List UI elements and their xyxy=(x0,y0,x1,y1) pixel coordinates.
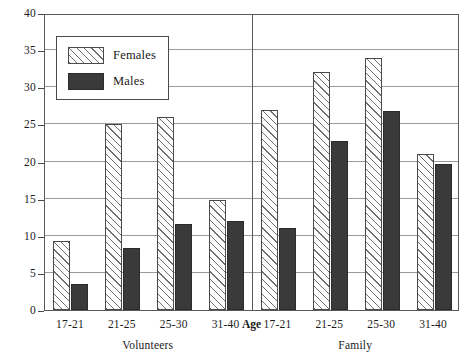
y-axis-tick-label: 15 xyxy=(0,194,36,206)
y-axis-tick-label: 40 xyxy=(0,8,36,20)
bar-volunteers-21-25-females xyxy=(105,124,122,310)
bar-volunteers-17-21-males xyxy=(71,284,88,310)
y-axis-tick-label: 35 xyxy=(0,45,36,57)
legend: Females Males xyxy=(56,36,169,100)
bar-volunteers-17-21-females xyxy=(53,241,70,310)
bar-family-21-25-males xyxy=(331,141,348,310)
bar-family-17-21-males xyxy=(279,228,296,310)
y-axis-tick-label: 20 xyxy=(0,157,36,169)
bar-volunteers-25-30-males xyxy=(175,224,192,310)
legend-label-males: Males xyxy=(113,74,145,89)
bar-volunteers-21-25-males xyxy=(123,248,140,310)
y-axis-tick-label: 5 xyxy=(0,268,36,280)
legend-entry-females: Females xyxy=(68,47,156,64)
y-axis-tick-label: 25 xyxy=(0,119,36,131)
legend-label-females: Females xyxy=(113,48,156,63)
bar-family-17-21-females xyxy=(261,110,278,310)
group-divider xyxy=(252,15,253,310)
y-axis-tick-mark xyxy=(38,311,44,312)
legend-swatch-males-icon xyxy=(68,73,104,90)
x-axis-group-label-volunteers: Volunteers xyxy=(68,339,228,351)
bar-family-31-40-males xyxy=(435,164,452,310)
bar-volunteers-31-40-males xyxy=(227,221,244,310)
x-axis-group-label-family: Family xyxy=(275,339,435,351)
x-axis-title: Age xyxy=(227,318,277,330)
bar-family-25-30-males xyxy=(383,111,400,310)
bar-volunteers-31-40-females xyxy=(209,200,226,310)
bar-chart: 0510152025303540 17-2121-2525-3031-40Vol… xyxy=(0,0,464,362)
legend-entry-males: Males xyxy=(68,73,145,90)
y-axis-tick-label: 0 xyxy=(0,305,36,317)
y-axis-tick-label: 10 xyxy=(0,231,36,243)
y-axis-tick-label: 30 xyxy=(0,82,36,94)
legend-swatch-females-icon xyxy=(68,47,104,64)
bar-family-25-30-females xyxy=(365,58,382,310)
bar-volunteers-25-30-females xyxy=(157,117,174,310)
x-axis-tick-label: 31-40 xyxy=(398,318,464,330)
bar-family-21-25-females xyxy=(313,72,330,310)
bar-family-31-40-females xyxy=(417,154,434,310)
